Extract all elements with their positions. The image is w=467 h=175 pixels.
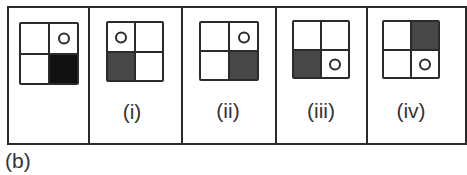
option-ii-label: (ii) [198,99,258,123]
cell-top-left [294,22,320,49]
cell-bottom-right-filled [230,52,257,79]
question-grid [19,22,79,85]
panel-divider [275,6,277,145]
circle-icon [329,58,341,70]
cell-bottom-left [201,52,228,79]
cell-bottom-right [136,53,162,81]
cell-top-left [201,23,228,50]
panel-divider [366,6,368,145]
panel-divider [181,6,183,145]
circle-icon [58,33,70,45]
cell-top-right-filled [412,22,438,49]
cell-top-left [108,23,134,51]
cell-bottom-right [412,51,438,78]
cell-top-left [21,24,48,53]
cell-bottom-right [322,51,348,78]
cell-top-right [322,22,348,49]
option-ii-grid [199,21,259,81]
cell-top-right [230,23,257,50]
cell-top-right [136,23,162,51]
circle-icon [115,31,127,43]
cell-bottom-right-filled [50,55,77,84]
cell-top-left [384,22,410,49]
option-iv-label: (iv) [381,99,441,123]
cell-bottom-left-filled [294,51,320,78]
figure-caption: (b) [5,149,31,173]
option-i-grid [106,21,164,82]
circle-icon [238,31,250,43]
cell-bottom-left [384,51,410,78]
cell-bottom-left-filled [108,53,134,81]
panel-divider [88,6,90,145]
option-iii-label: (iii) [291,99,351,123]
cell-bottom-left [21,55,48,84]
option-iii-grid [292,20,350,79]
circle-icon [419,58,431,70]
option-i-label: (i) [102,100,162,124]
cell-top-right [50,24,77,53]
option-iv-grid [382,20,440,79]
